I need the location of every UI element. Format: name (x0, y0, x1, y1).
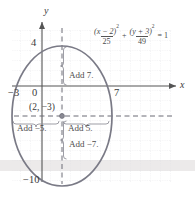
annotation-add-minus-7: Add −7. (69, 140, 99, 149)
x-axis-arrow (169, 83, 176, 89)
y-axis-label: y (44, 6, 48, 16)
ellipse-graph-figure: y x −3 0 7 4 −10 (2, −3) Add 7. Add −5. … (0, 0, 195, 199)
equation-fraction-x: (x − 2)2 25 (92, 26, 121, 46)
center-point-label: (2, −3) (29, 103, 55, 113)
center-point-marker (60, 114, 65, 119)
annotation-add-minus-5: Add −5. (17, 124, 47, 133)
equation-plus-sign: + (122, 32, 127, 40)
equation-denominator-25: 25 (101, 36, 113, 46)
x-tick-minus-3: −3 (8, 88, 19, 99)
annotation-add-7: Add 7. (69, 71, 94, 80)
y-axis-arrow (39, 22, 45, 29)
ellipse-equation: (x − 2)2 25 + (y + 3)2 49 = 1 (92, 26, 168, 46)
y-tick-minus-10: −10 (23, 175, 39, 186)
equation-numerator-y: (y + 3)2 (128, 26, 157, 36)
x-tick-origin: 0 (32, 88, 37, 99)
x-axis-label: x (180, 80, 184, 90)
equation-numerator-x: (x − 2)2 (92, 26, 121, 36)
annotation-add-5: Add 5. (68, 124, 93, 133)
equation-equals-one: = 1 (158, 32, 169, 40)
x-tick-7: 7 (114, 88, 119, 99)
y-tick-4: 4 (31, 38, 36, 49)
equation-denominator-49: 49 (136, 36, 148, 46)
equation-fraction-y: (y + 3)2 49 (128, 26, 157, 46)
